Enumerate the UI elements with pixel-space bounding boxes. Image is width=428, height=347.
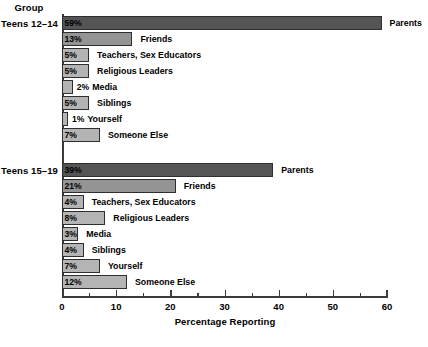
bar-row[interactable]: 3%Media <box>62 227 387 241</box>
group-label-2: Teens 15–19 <box>0 165 58 176</box>
bar-row[interactable]: 5%Siblings <box>62 96 387 110</box>
bar-value-label: 5% <box>65 50 77 60</box>
x-tick-30 <box>225 290 226 297</box>
bar-category-label: Siblings <box>97 98 131 108</box>
bar-category-label: Yourself <box>87 114 122 124</box>
x-minor-tick-25 <box>197 293 198 298</box>
bar-value-label: 39% <box>65 165 82 175</box>
x-tick-60 <box>387 290 388 297</box>
x-minor-tick-55 <box>360 293 361 298</box>
group-label-1: Teens 12–14 <box>0 18 58 29</box>
bar-value-label: 12% <box>65 277 82 287</box>
x-tick-10 <box>116 290 117 297</box>
bar-row[interactable]: 5%Teachers, Sex Educators <box>62 48 387 62</box>
bar-row[interactable]: 5%Religious Leaders <box>62 64 387 78</box>
bar-category-label: Yourself <box>108 261 143 271</box>
bar-category-label: Friends <box>184 181 216 191</box>
bar-value-label: 2% <box>77 82 89 92</box>
bar-row[interactable]: 2%Media <box>62 80 387 94</box>
x-tick-20 <box>170 290 171 297</box>
bar-row[interactable]: 8%Religious Leaders <box>62 211 387 225</box>
x-tick-label-10: 10 <box>101 301 131 312</box>
bar-row[interactable]: 4%Teachers, Sex Educators <box>62 195 387 209</box>
x-tick-label-50: 50 <box>318 301 348 312</box>
bar-row[interactable]: 4%Siblings <box>62 243 387 257</box>
x-axis-title: Percentage Reporting <box>62 316 388 327</box>
bar-value-label: 4% <box>65 197 77 207</box>
bar-row[interactable]: 39%Parents <box>62 163 387 177</box>
bar-category-label: Religious Leaders <box>97 66 173 76</box>
bar-value-label: 7% <box>65 261 77 271</box>
bar-value-label: 7% <box>65 130 77 140</box>
bar-category-label: Parents <box>390 18 422 28</box>
bar-category-label: Siblings <box>92 245 126 255</box>
bar[interactable] <box>62 16 382 30</box>
bar-row[interactable]: 59%Parents <box>62 16 387 30</box>
bar-row[interactable]: 7%Yourself <box>62 259 387 273</box>
x-tick-label-60: 60 <box>372 301 402 312</box>
x-tick-label-20: 20 <box>155 301 185 312</box>
bar-category-label: Friends <box>140 34 172 44</box>
x-tick-0 <box>62 290 63 297</box>
bar-category-label: Teachers, Sex Educators <box>92 197 196 207</box>
bar-category-label: Religious Leaders <box>113 213 189 223</box>
bar-value-label: 5% <box>65 66 77 76</box>
x-minor-tick-35 <box>252 293 253 298</box>
bar-value-label: 8% <box>65 213 77 223</box>
x-tick-label-30: 30 <box>210 301 240 312</box>
bar-row[interactable]: 1%Yourself <box>62 112 387 126</box>
x-tick-label-40: 40 <box>264 301 294 312</box>
x-tick-label-0: 0 <box>47 301 77 312</box>
bar-category-label: Teachers, Sex Educators <box>97 50 201 60</box>
bar-value-label: 1% <box>72 114 84 124</box>
bar-row[interactable]: 7%Someone Else <box>62 128 387 142</box>
x-tick-40 <box>279 290 280 297</box>
bar-category-label: Parents <box>281 165 313 175</box>
x-tick-50 <box>333 290 334 297</box>
bar-row[interactable]: 12%Someone Else <box>62 275 387 289</box>
bar-category-label: Media <box>86 229 111 239</box>
bar[interactable] <box>62 80 73 94</box>
bar-value-label: 4% <box>65 245 77 255</box>
bar[interactable] <box>62 163 273 177</box>
bar-category-label: Someone Else <box>135 277 195 287</box>
bar[interactable] <box>62 112 68 126</box>
x-minor-tick-15 <box>143 293 144 298</box>
bar-value-label: 21% <box>65 181 82 191</box>
y-axis-header: Group <box>0 2 58 13</box>
bar-value-label: 5% <box>65 98 77 108</box>
bar-value-label: 3% <box>65 229 77 239</box>
bar-category-label: Media <box>92 82 117 92</box>
bar-value-label: 59% <box>65 18 82 28</box>
bar-chart: Group 0102030405060 59%Parents13%Friends… <box>0 0 428 347</box>
x-minor-tick-5 <box>89 293 90 298</box>
bar-row[interactable]: 13%Friends <box>62 32 387 46</box>
x-minor-tick-45 <box>306 293 307 298</box>
bar-row[interactable]: 21%Friends <box>62 179 387 193</box>
bar-category-label: Someone Else <box>108 130 168 140</box>
bar-value-label: 13% <box>65 34 82 44</box>
